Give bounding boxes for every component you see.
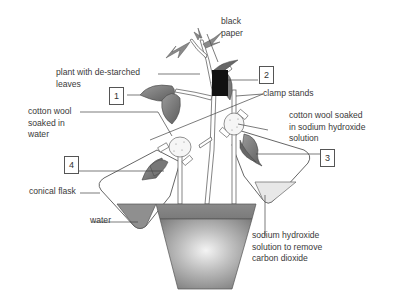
label-cotton-wool-naoh: cotton wool soaked in sodium hydroxide s…	[289, 110, 365, 145]
numbered-box-2: 2	[259, 66, 274, 84]
plant-pot	[156, 204, 256, 289]
numbered-box-1: 1	[109, 87, 124, 105]
black-paper	[212, 70, 228, 96]
label-cotton-wool-water: cotton wool soaked in water	[28, 106, 71, 141]
numbered-box-4: 4	[64, 156, 79, 174]
label-water: water	[90, 215, 111, 227]
naoh-in-flask	[255, 182, 296, 203]
label-plant: plant with de-starched leaves	[56, 67, 140, 90]
label-clamp-stands: clamp stands	[263, 88, 314, 100]
label-conical-flask: conical flask	[29, 186, 76, 198]
label-black-paper: black paper	[221, 16, 243, 39]
label-sodium-hydroxide-solution: sodium hydroxide solution to remove carb…	[252, 230, 322, 265]
leaf-1	[140, 85, 180, 124]
numbered-box-3: 3	[320, 149, 335, 167]
experiment-diagram: black paper plant with de-starched leave…	[0, 0, 394, 305]
water-in-flask	[117, 204, 156, 229]
